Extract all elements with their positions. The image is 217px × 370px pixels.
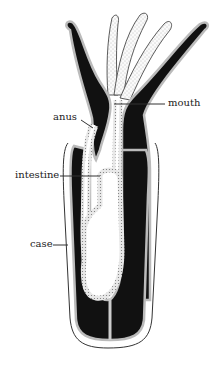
label-case: case	[30, 239, 53, 249]
organism-diagram	[0, 0, 217, 370]
label-intestine: intestine	[15, 170, 59, 180]
label-mouth: mouth	[168, 98, 200, 108]
label-anus: anus	[53, 112, 77, 122]
tentacles-pale	[107, 13, 172, 100]
